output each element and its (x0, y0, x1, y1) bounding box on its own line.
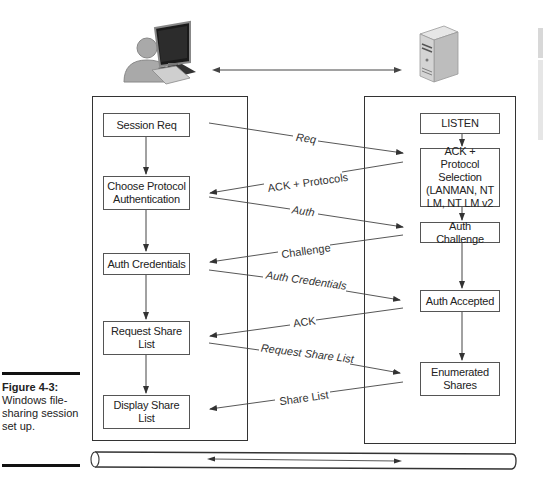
figure-caption-text: Windows file-sharing session set up. (2, 394, 78, 432)
caption-rule-bottom (2, 464, 80, 467)
figure-number: Figure 4-3: (2, 381, 82, 394)
message-label-auth-credentials: Auth Credentials (264, 268, 348, 291)
message-label-req: Req (295, 131, 318, 146)
message-label-ack-protocols: ACK + Protocols (267, 171, 349, 194)
page-edge-tab (538, 60, 543, 140)
figure-caption: Figure 4-3: Windows file-sharing session… (2, 381, 82, 433)
page-edge-tab (538, 28, 543, 58)
caption-rule-top (2, 372, 80, 375)
network-cable-icon (91, 452, 516, 469)
message-label-request-share-list: Request Share List (260, 342, 355, 365)
message-label-auth: Auth (290, 203, 315, 218)
message-label-challenge: Challenge (281, 241, 332, 260)
message-label-share-list: Share List (279, 388, 330, 407)
message-label-ack: ACK (292, 314, 317, 329)
